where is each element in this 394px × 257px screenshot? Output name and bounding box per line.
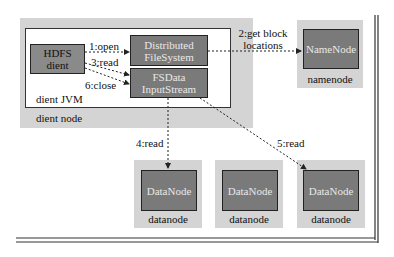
datanode-1-box[interactable]: DataNode (141, 170, 197, 211)
client-jvm-label: dient JVM (36, 93, 83, 105)
hdfs-client-line2: dient (47, 59, 69, 71)
fsdis-line2: InputStream (142, 83, 196, 95)
namenode-box[interactable]: NameNode (303, 29, 359, 69)
datanode-3-caption: datanode (297, 213, 365, 225)
edge-label-get-block-line1: 2:get block (228, 27, 298, 39)
datanode-1-label: DataNode (147, 185, 192, 197)
datanode-3-label: DataNode (309, 185, 354, 197)
edge-label-get-block: 2:get block locations (228, 27, 298, 51)
distributed-filesystem-box[interactable]: Distributed FileSystem (130, 35, 208, 66)
fsdata-inputstream-box[interactable]: FSData InputStream (130, 68, 208, 98)
dfs-line1: Distributed (144, 39, 194, 51)
fsdis-line1: FSData (153, 71, 186, 83)
datanode-3-box[interactable]: DataNode (303, 170, 359, 211)
edge-label-close: 6:close (85, 79, 116, 91)
namenode-box-label: NameNode (306, 43, 356, 55)
edge-label-get-block-line2: locations (228, 39, 298, 51)
edge-label-open: 1:open (89, 40, 119, 52)
namenode-caption: namenode (297, 73, 363, 85)
datanode-1-caption: datanode (134, 213, 202, 225)
dfs-line2: FileSystem (144, 51, 194, 63)
hdfs-client-line1: HDFS (43, 47, 71, 59)
client-node-label: dient node (36, 112, 82, 124)
edge-label-read-5: 5:read (277, 137, 304, 149)
edge-label-read-4: 4:read (136, 137, 163, 149)
datanode-2-box[interactable]: DataNode (222, 170, 278, 211)
hdfs-client-box[interactable]: HDFS dient (30, 44, 85, 74)
datanode-2-caption: datanode (215, 213, 283, 225)
datanode-2-label: DataNode (228, 185, 273, 197)
edge-label-read-3: 3:read (91, 56, 118, 68)
